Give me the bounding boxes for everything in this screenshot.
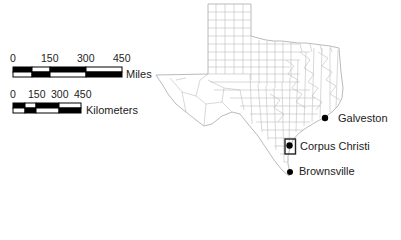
miles-unit-label: Miles — [126, 69, 152, 80]
galveston-marker — [322, 115, 328, 121]
kilometers-unit-label: Kilometers — [86, 105, 138, 116]
brownsville-label: Brownsville — [299, 166, 355, 177]
miles-tick-450: 450 — [113, 53, 131, 63]
miles-scale-bar — [13, 67, 122, 77]
corpus-christi-marker — [286, 142, 292, 148]
brownsville-marker — [287, 169, 293, 175]
miles-tick-0: 0 — [10, 53, 16, 63]
miles-tick-300: 300 — [77, 53, 95, 63]
km-tick-150: 150 — [28, 89, 46, 99]
kilometers-scale-bar — [13, 103, 81, 113]
galveston-label: Galveston — [338, 113, 388, 124]
corpus-christi-label: Corpus Christi — [300, 141, 370, 152]
km-tick-450: 450 — [74, 89, 92, 99]
km-tick-0: 0 — [10, 89, 16, 99]
miles-tick-150: 150 — [41, 53, 59, 63]
km-tick-300: 300 — [51, 89, 69, 99]
